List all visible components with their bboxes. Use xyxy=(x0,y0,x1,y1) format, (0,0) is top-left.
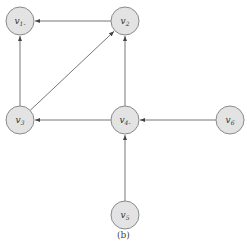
node-v5: v5 xyxy=(111,201,139,229)
graph-figure: v1-v2v3v4-v6v5 (b) xyxy=(0,0,247,247)
node-v2: v2 xyxy=(111,7,139,35)
node-v6: v6 xyxy=(216,106,244,134)
node-v1: v1- xyxy=(6,7,34,35)
directed-graph: v1-v2v3v4-v6v5 xyxy=(0,0,247,247)
node-v4: v4- xyxy=(111,106,139,134)
node-v3: v3 xyxy=(6,106,34,134)
edge-v3-to-v2 xyxy=(30,31,114,110)
figure-caption: (b) xyxy=(0,230,247,240)
